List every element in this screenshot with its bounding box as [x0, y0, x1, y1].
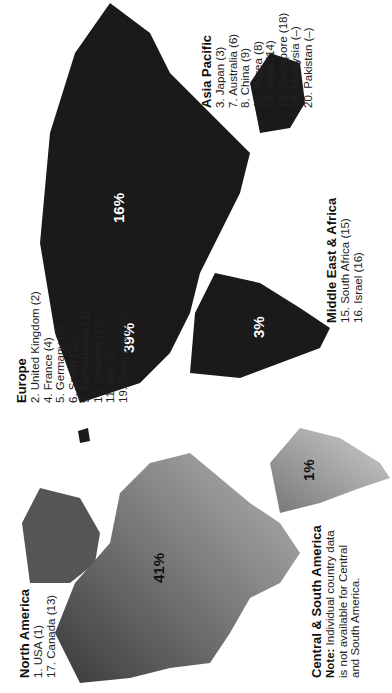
asia-pacific-title: Asia Pacific [200, 35, 214, 108]
central-south-america-title: Central & South America [310, 525, 324, 678]
world-map-canvas: 41% 39% 16% 3% 1% North America 1. USA (… [0, 0, 392, 693]
south-america-shape [270, 428, 390, 513]
asia-pacific-list: 3. Japan (3) 7. Australia (6) 8. China (… [214, 13, 314, 108]
country-item: 17. Canada (13) [45, 595, 58, 678]
country-item: 12. Korea (8) [252, 13, 265, 108]
central-south-america-note: Note: Individual country data is not ava… [324, 528, 362, 678]
north-america-list: 1. USA (1) 17. Canada (13) [32, 595, 57, 678]
country-item: 1. USA (1) [32, 595, 45, 678]
note-label: Note: [324, 649, 336, 678]
north-america-share: 41% [150, 553, 167, 583]
country-item: 14. Singapore (18) [277, 13, 290, 108]
country-item: 5. Germany (7) [54, 291, 67, 403]
country-item: 20. Pakistan (–) [302, 13, 315, 108]
north-america-shape [55, 453, 300, 683]
country-item: 2. United Kingdom (2) [29, 291, 42, 403]
middle-east-africa-title: Middle East & Africa [325, 198, 339, 323]
country-item: 3. Japan (3) [214, 13, 227, 108]
iceland-shape [78, 428, 90, 443]
middle-east-africa-share: 3% [250, 316, 267, 338]
country-item: 8. China (9) [239, 13, 252, 108]
asia-pacific-share: 16% [110, 193, 127, 223]
europe-title: Europe [15, 358, 29, 403]
country-item: 16. Israel (16) [352, 218, 365, 323]
europe-list: 2. United Kingdom (2) 4. France (4) 5. G… [29, 291, 129, 403]
country-item: 4. France (4) [42, 291, 55, 403]
country-item: 15. South Africa (15) [339, 218, 352, 323]
country-item: 18. Malaysia (–) [289, 13, 302, 108]
country-item: 9. Netherlands (11) [79, 291, 92, 403]
country-item: 19. Denmark (20) [117, 291, 130, 403]
north-america-title: North America [18, 589, 32, 678]
country-item: 6. Spain (10) [67, 291, 80, 403]
country-item: 7. Australia (6) [227, 13, 240, 108]
south-america-share: 1% [300, 459, 317, 481]
middle-east-africa-list: 15. South Africa (15) 16. Israel (16) [339, 218, 364, 323]
country-item: 10. Sweden (12) [92, 291, 105, 403]
country-item: 11. Italy (5) [104, 291, 117, 403]
country-item: 13. India (14) [264, 13, 277, 108]
